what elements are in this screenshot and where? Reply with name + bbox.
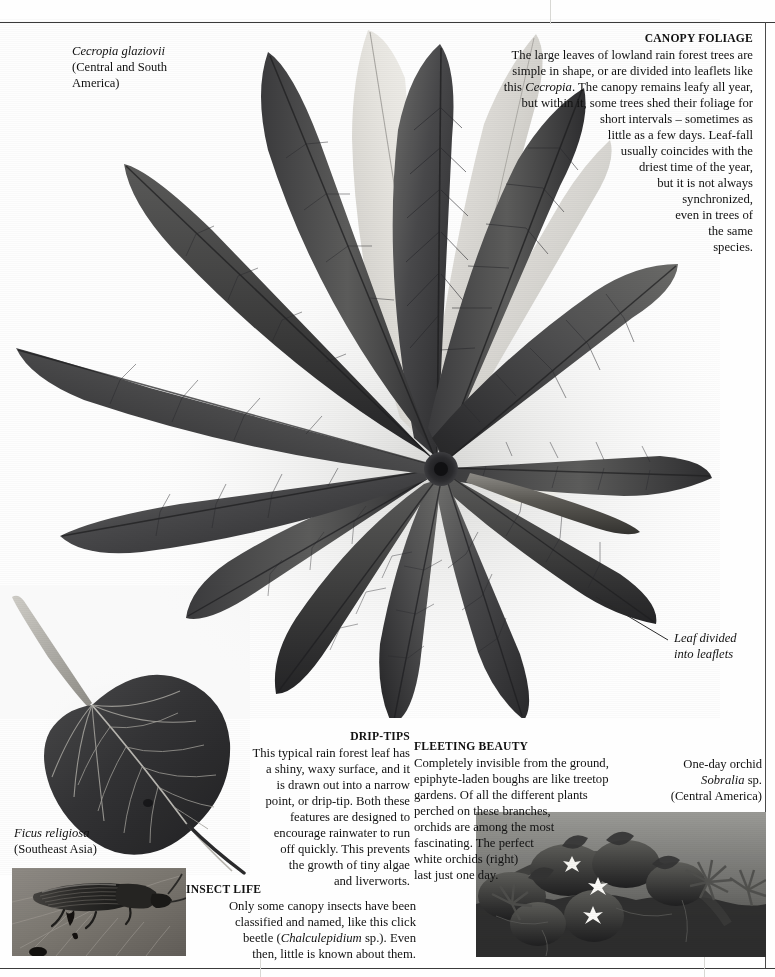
- article-line: but within it, some trees shed their fol…: [465, 95, 753, 111]
- article-line: fascinating. The perfect: [414, 835, 629, 851]
- article-text: classified and named, like this click: [235, 915, 416, 929]
- click-beetle-photo: [12, 868, 186, 956]
- drip-tips-heading: DRIP-TIPS: [228, 730, 410, 745]
- article-text: point, or drip-tip. Both these: [266, 794, 410, 808]
- article-text: this: [504, 80, 526, 94]
- article-text: fascinating. The perfect: [414, 836, 534, 850]
- cecropia-specimen-label: Cecropia glaziovii (Central and South Am…: [72, 44, 272, 92]
- article-line: even in trees of: [465, 207, 753, 223]
- article-line: last just one day.: [414, 867, 629, 883]
- fleeting-beauty-article: FLEETING BEAUTY Completely invisible fro…: [414, 740, 629, 883]
- article-text: The large leaves of lowland rain forest …: [512, 48, 753, 62]
- article-line: Only some canopy insects have been: [186, 898, 416, 914]
- article-line: species.: [465, 239, 753, 255]
- article-text: white orchids (right): [414, 852, 518, 866]
- cecropia-species-name: Cecropia glaziovii: [72, 44, 272, 60]
- orchid-specimen-label: One-day orchid Sobralia sp. (Central Ame…: [622, 757, 762, 805]
- canopy-foliage-heading: CANOPY FOLIAGE: [465, 32, 753, 47]
- article-line: encourage rainwater to run: [228, 825, 410, 841]
- gutter-mark-bottom-right: [704, 956, 705, 977]
- ficus-origin: (Southeast Asia): [14, 842, 184, 858]
- fleeting-beauty-heading: FLEETING BEAUTY: [414, 740, 629, 755]
- insect-life-article: INSECT LIFE Only some canopy insects hav…: [186, 883, 416, 962]
- insect-life-body: Only some canopy insects have beenclassi…: [186, 898, 416, 962]
- article-text: perched on these branches,: [414, 804, 551, 818]
- article-line: The large leaves of lowland rain forest …: [465, 47, 753, 63]
- article-text: off quickly. This prevents: [280, 842, 410, 856]
- drip-tips-article: DRIP-TIPS This typical rain forest leaf …: [228, 730, 410, 889]
- article-line: little as a few days. Leaf-fall: [465, 127, 753, 143]
- article-line: a shiny, waxy surface, and it: [228, 761, 410, 777]
- article-text: epiphyte-laden boughs are like treetop: [414, 772, 608, 786]
- article-line: the same: [465, 223, 753, 239]
- page-rule-bottom: [0, 968, 775, 969]
- orchid-origin: (Central America): [622, 789, 762, 805]
- article-text: gardens. Of all the different plants: [414, 788, 588, 802]
- leaf-divided-line1: Leaf divided: [674, 630, 770, 646]
- article-text: This typical rain forest leaf has: [253, 746, 410, 760]
- article-line: then, little is known about them.: [186, 946, 416, 962]
- article-text: encourage rainwater to run: [274, 826, 410, 840]
- orchid-species-line: Sobralia sp.: [622, 773, 762, 789]
- article-text: short intervals – sometimes as: [600, 112, 753, 126]
- scientific-name: Cecropia: [525, 80, 572, 94]
- article-text: usually coincides with the: [621, 144, 753, 158]
- article-line: orchids are among the most: [414, 819, 629, 835]
- article-line: usually coincides with the: [465, 143, 753, 159]
- article-line: point, or drip-tip. Both these: [228, 793, 410, 809]
- article-line: off quickly. This prevents: [228, 841, 410, 857]
- article-line: gardens. Of all the different plants: [414, 787, 629, 803]
- article-line: synchronized,: [465, 191, 753, 207]
- article-line: perched on these branches,: [414, 803, 629, 819]
- article-text: last just one day.: [414, 868, 498, 882]
- encyclopedia-page: Cecropia glaziovii (Central and South Am…: [0, 0, 775, 977]
- article-line: but it is not always: [465, 175, 753, 191]
- article-text: synchronized,: [682, 192, 753, 206]
- orchid-species-name: Sobralia: [701, 773, 744, 787]
- article-text: is drawn out into a narrow: [276, 778, 410, 792]
- canopy-foliage-article: CANOPY FOLIAGE The large leaves of lowla…: [465, 32, 753, 255]
- article-text: little as a few days. Leaf-fall: [608, 128, 753, 142]
- article-line: the growth of tiny algae: [228, 857, 410, 873]
- article-line: classified and named, like this click: [186, 914, 416, 930]
- article-text: a shiny, waxy surface, and it: [266, 762, 410, 776]
- scientific-name: Chalculepidium: [281, 931, 362, 945]
- article-text: driest time of the year,: [639, 160, 753, 174]
- article-text: . The canopy remains leafy all year,: [572, 80, 753, 94]
- article-line: This typical rain forest leaf has: [228, 745, 410, 761]
- article-text: Only some canopy insects have been: [229, 899, 416, 913]
- cecropia-origin-line2: America): [72, 76, 272, 92]
- article-text: beetle (: [243, 931, 281, 945]
- article-text: even in trees of: [675, 208, 753, 222]
- article-text: Completely invisible from the ground,: [414, 756, 609, 770]
- article-line: beetle (Chalculepidium sp.). Even: [186, 930, 416, 946]
- article-line: white orchids (right): [414, 851, 629, 867]
- leaf-divided-annotation: Leaf divided into leaflets: [674, 630, 770, 663]
- orchid-species-suffix: sp.: [745, 773, 763, 787]
- article-line: simple in shape, or are divided into lea…: [465, 63, 753, 79]
- article-text: sp.). Even: [362, 931, 416, 945]
- article-text: orchids are among the most: [414, 820, 554, 834]
- article-line: is drawn out into a narrow: [228, 777, 410, 793]
- article-text: the growth of tiny algae: [289, 858, 410, 872]
- article-line: features are designed to: [228, 809, 410, 825]
- insect-life-heading: INSECT LIFE: [186, 883, 416, 898]
- article-line: Completely invisible from the ground,: [414, 755, 629, 771]
- fleeting-beauty-body: Completely invisible from the ground,epi…: [414, 755, 629, 884]
- ficus-species-name: Ficus religiosa: [14, 826, 184, 842]
- article-line: short intervals – sometimes as: [465, 111, 753, 127]
- article-text: then, little is known about them.: [252, 947, 416, 961]
- canopy-foliage-body: The large leaves of lowland rain forest …: [465, 47, 753, 256]
- leaf-divided-line2: into leaflets: [674, 646, 770, 662]
- article-text: features are designed to: [290, 810, 410, 824]
- article-text: species.: [713, 240, 753, 254]
- article-line: this Cecropia. The canopy remains leafy …: [465, 79, 753, 95]
- article-text: the same: [708, 224, 753, 238]
- article-line: driest time of the year,: [465, 159, 753, 175]
- article-text: simple in shape, or are divided into lea…: [512, 64, 753, 78]
- ficus-specimen-label: Ficus religiosa (Southeast Asia): [14, 826, 184, 858]
- article-text: but within it, some trees shed their fol…: [522, 96, 754, 110]
- article-text: but it is not always: [657, 176, 753, 190]
- cecropia-origin-line1: (Central and South: [72, 60, 272, 76]
- orchid-common-name: One-day orchid: [622, 757, 762, 773]
